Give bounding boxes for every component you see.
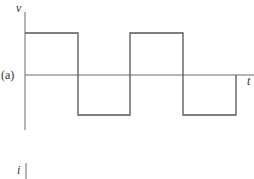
panel-label: (a): [1, 69, 14, 81]
t-axis-label: t: [247, 75, 250, 87]
i-axis-label: i: [17, 164, 20, 176]
v-axis-label: v: [16, 2, 21, 14]
waveform-diagram: [0, 0, 254, 179]
square-wave: [25, 33, 236, 115]
